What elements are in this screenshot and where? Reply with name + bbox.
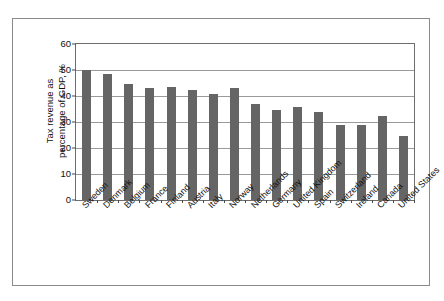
y-tick-label: 60 bbox=[60, 39, 71, 49]
bar-sweden bbox=[82, 70, 91, 200]
y-tick-label: 10 bbox=[60, 169, 71, 179]
y-tick-label: 20 bbox=[60, 143, 71, 153]
y-tick-label: 30 bbox=[60, 117, 71, 127]
bar-canada bbox=[378, 116, 387, 201]
bar-norway bbox=[230, 88, 239, 200]
y-tick-label: 0 bbox=[66, 195, 71, 205]
y-axis-title: Tax revenue as percentage of GDP, % bbox=[39, 31, 71, 191]
bar-austria bbox=[188, 90, 197, 200]
x-axis-category-labels: SwedenDenmarkBelgiumFranceFinlandAustria… bbox=[75, 203, 435, 287]
chart-frame: Tax revenue as percentage of GDP, % 0102… bbox=[12, 18, 430, 286]
bar-italy bbox=[209, 94, 218, 200]
y-tick-label: 40 bbox=[60, 91, 71, 101]
bar-finland bbox=[167, 87, 176, 200]
y-tick-label: 50 bbox=[60, 65, 71, 75]
y-axis-title-line-1: Tax revenue as bbox=[44, 79, 55, 143]
